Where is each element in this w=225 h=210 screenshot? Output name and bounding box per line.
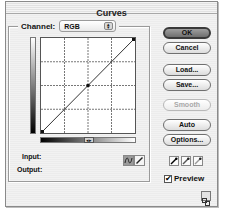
- curve-point-icon: [124, 156, 133, 165]
- options-button[interactable]: Options...: [163, 134, 211, 146]
- curve-tool-button[interactable]: [123, 155, 134, 166]
- resize-grip[interactable]: [201, 191, 211, 201]
- channel-label: Channel:: [21, 22, 55, 31]
- preview-checkbox[interactable]: ✔: [164, 175, 172, 183]
- output-gradient-bar: [30, 37, 36, 134]
- white-point-eyedropper[interactable]: [193, 156, 203, 166]
- title-bar[interactable]: Curves: [6, 2, 217, 14]
- save-button[interactable]: Save...: [163, 79, 211, 91]
- black-point-eyedropper[interactable]: [169, 156, 179, 166]
- resize-icon: [202, 198, 210, 206]
- smooth-button[interactable]: Smooth: [163, 99, 211, 111]
- auto-button[interactable]: Auto: [163, 119, 211, 131]
- input-label: Input:: [22, 153, 41, 160]
- gradient-direction-toggle[interactable]: ◂▸: [84, 137, 94, 143]
- pencil-icon: [135, 156, 144, 165]
- curve-graph[interactable]: [40, 37, 136, 134]
- gray-point-eyedropper[interactable]: [181, 156, 191, 166]
- curve-grid-icon: [41, 38, 135, 133]
- channel-row: Channel: RGB ▴▾: [18, 19, 119, 33]
- window-title: Curves: [96, 8, 127, 18]
- pencil-tool-button[interactable]: [134, 155, 145, 166]
- ok-button[interactable]: OK: [163, 27, 211, 39]
- cancel-button[interactable]: Cancel: [163, 42, 211, 54]
- eyedropper-gray-icon: [182, 157, 190, 165]
- preview-label: Preview: [174, 174, 204, 183]
- channel-select[interactable]: RGB ▴▾: [59, 20, 116, 32]
- preview-toggle[interactable]: ✔ Preview: [164, 174, 204, 183]
- eyedropper-white-icon: [194, 157, 202, 165]
- output-label: Output:: [17, 166, 42, 173]
- load-button[interactable]: Load...: [163, 64, 211, 76]
- channel-value: RGB: [64, 23, 80, 30]
- select-arrows-icon: ▴▾: [104, 22, 113, 30]
- eyedropper-black-icon: [170, 157, 178, 165]
